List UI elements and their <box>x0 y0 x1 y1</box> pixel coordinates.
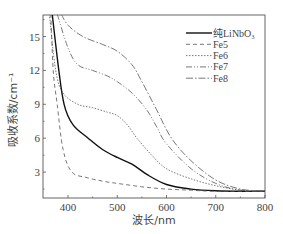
x-tick-label: 600 <box>158 201 175 213</box>
legend: 纯LiNbO₃Fe5Fe6Fe7Fe8 <box>186 27 255 84</box>
y-tick-label: 9 <box>35 98 41 110</box>
y-tick-label: 15 <box>29 31 41 43</box>
y-tick-label: 3 <box>35 166 41 178</box>
x-tick-label: 700 <box>208 201 225 213</box>
absorption-chart: 400500600700800 3691215 纯LiNbO₃Fe5Fe6Fe7… <box>0 0 283 234</box>
series-fe5 <box>51 14 265 191</box>
y-tick-label: 6 <box>35 132 41 144</box>
plot-frame <box>43 15 265 198</box>
x-tick-label: 500 <box>109 201 126 213</box>
series-fe6 <box>49 14 265 191</box>
x-axis-title: 波长/nm <box>132 214 175 227</box>
legend-label: Fe8 <box>213 73 228 84</box>
series-fe8 <box>61 14 265 191</box>
y-tick-label: 12 <box>29 64 40 76</box>
y-axis-title: 吸收系数/cm⁻¹ <box>6 73 20 148</box>
legend-label: Fe7 <box>213 61 228 72</box>
x-tick-label: 400 <box>60 201 77 213</box>
series-fe7 <box>57 14 265 191</box>
x-tick-label: 800 <box>257 201 274 213</box>
legend-label: Fe6 <box>213 50 228 61</box>
series--linbo- <box>52 14 265 191</box>
data-series <box>49 14 265 191</box>
legend-label: Fe5 <box>213 39 228 50</box>
legend-label: 纯LiNbO₃ <box>213 27 255 39</box>
